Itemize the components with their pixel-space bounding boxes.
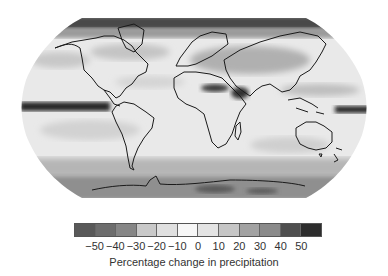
colorbar-cell: [281, 224, 302, 236]
colorbar-tick-label: −50: [85, 239, 104, 253]
subarctic-band: [0, 28, 388, 38]
colorbar-tick-label: 30: [254, 239, 266, 253]
colorbar-cell: [219, 224, 240, 236]
colorbar-tick-label: −20: [147, 239, 166, 253]
colorbar-cell: [96, 224, 117, 236]
world-precipitation-map: [0, 0, 388, 215]
central-asia-band: [190, 46, 310, 74]
colorbar-tick-label: 0: [195, 239, 201, 253]
colorbar-tick-label: 50: [295, 239, 307, 253]
southern-ocean-band: [0, 158, 388, 178]
colorbar-cell: [301, 224, 321, 236]
colorbar-cell: [137, 224, 158, 236]
east-antarctica-dark-2: [246, 188, 278, 194]
colorbar-cell: [240, 224, 261, 236]
antarctica-field: [0, 176, 388, 200]
east-antarctica-dark-1: [195, 185, 235, 193]
arctic-band: [0, 16, 388, 30]
west-pacific-band: [280, 84, 360, 96]
equatorial-pacific-west-band: [335, 106, 375, 113]
colorbar-cell: [157, 224, 178, 236]
colorbar-cell: [178, 224, 199, 236]
colorbar-cell: [198, 224, 219, 236]
colorbar-label: Percentage change in precipitation: [0, 255, 388, 269]
colorbar-tick-label: −30: [127, 239, 146, 253]
colorbar: [74, 223, 322, 237]
colorbar-tick-label: 40: [275, 239, 287, 253]
colorbar-ticks: −50−40−30−20−1001020304050: [74, 239, 322, 253]
colorbar-tick-label: 20: [233, 239, 245, 253]
colorbar-cell: [116, 224, 137, 236]
colorbar-cell: [260, 224, 281, 236]
colorbar-tick-label: −40: [106, 239, 125, 253]
colorbar-tick-label: 10: [213, 239, 225, 253]
equatorial-pacific-east-band: [20, 102, 110, 111]
colorbar-tick-label: −10: [168, 239, 187, 253]
colorbar-cell: [75, 224, 96, 236]
north-america-band: [90, 44, 170, 60]
subtropical-south-pacific: [40, 120, 140, 140]
south-indian-ocean: [250, 137, 330, 153]
sahara-band: [201, 84, 229, 92]
